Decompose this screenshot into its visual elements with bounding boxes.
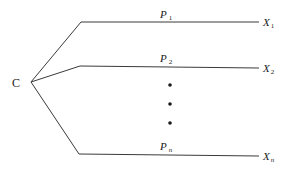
branches-group: P1X1P2X2PnXn (31, 8, 275, 164)
leaf-outcome-label: X1 (262, 16, 275, 30)
ellipsis-dot (168, 102, 172, 106)
edge-probability-label: P1 (159, 8, 173, 22)
branching-diagram: C P1X1P2X2PnXn (0, 0, 292, 174)
root-label: C (12, 76, 20, 90)
leaf-outcome-label: Xn (262, 150, 275, 164)
ellipsis-dot (168, 83, 172, 87)
edge-probability-label: Pn (159, 140, 173, 154)
branch-edge (31, 22, 259, 82)
branch-edge (31, 66, 259, 82)
leaf-outcome-label: X2 (262, 62, 275, 76)
branch-1: P1X1 (31, 8, 275, 82)
ellipsis-dots (168, 83, 172, 125)
branch-edge (31, 82, 259, 156)
branch-n: PnXn (31, 82, 275, 164)
ellipsis-dot (168, 121, 172, 125)
edge-probability-label: P2 (159, 52, 173, 66)
branch-2: P2X2 (31, 52, 275, 82)
